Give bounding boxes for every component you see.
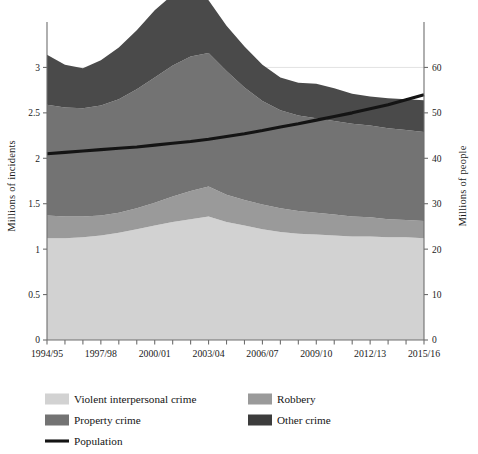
legend-label: Population xyxy=(74,435,123,447)
x-tick-label: 2003/04 xyxy=(193,348,225,359)
y-axis-title: Millions of incidents xyxy=(6,140,17,232)
right-tick-label: 40 xyxy=(432,154,442,164)
right-tick-label: 10 xyxy=(432,290,442,300)
legend-color-swatch xyxy=(248,415,272,426)
legend-item: Other crime xyxy=(248,414,331,426)
left-tick-label: 1.5 xyxy=(28,199,40,209)
x-tick-label: 2015/16 xyxy=(408,348,440,359)
legend-item: Property crime xyxy=(45,414,141,426)
left-tick-label: 3 xyxy=(35,63,40,73)
x-tick-label: 2012/13 xyxy=(354,348,386,359)
crime-and-population-area-chart: 00.511.522.53 0102030405060 1994/951997/… xyxy=(0,0,478,454)
x-tick-label: 1997/98 xyxy=(85,348,117,359)
x-tick-label: 2006/07 xyxy=(246,348,278,359)
x-tick-label: 2009/10 xyxy=(300,348,332,359)
y2-axis-title: Millions of people xyxy=(457,145,468,226)
right-tick-label: 50 xyxy=(432,108,442,118)
legend-label: Other crime xyxy=(277,414,331,426)
legend-label: Property crime xyxy=(74,414,141,426)
right-tick-label: 30 xyxy=(432,199,442,209)
legend-color-swatch xyxy=(45,394,69,405)
legend-label: Violent interpersonal crime xyxy=(74,393,196,405)
legend-label: Robbery xyxy=(277,393,316,405)
x-tick-label: 1994/95 xyxy=(31,348,63,359)
left-tick-label: 0 xyxy=(35,335,40,345)
right-tick-label: 60 xyxy=(432,63,442,73)
right-tick-label: 20 xyxy=(432,245,442,255)
x-tick-label: 2000/01 xyxy=(139,348,171,359)
legend-color-swatch xyxy=(248,394,272,405)
right-tick-label: 0 xyxy=(432,335,437,345)
legend-item: Robbery xyxy=(248,393,316,405)
legend-item: Violent interpersonal crime xyxy=(45,393,196,405)
left-tick-label: 1 xyxy=(35,245,40,255)
left-tick-label: 2 xyxy=(35,154,40,164)
left-tick-label: 0.5 xyxy=(28,290,40,300)
legend-color-swatch xyxy=(45,415,69,426)
left-tick-label: 2.5 xyxy=(28,108,40,118)
